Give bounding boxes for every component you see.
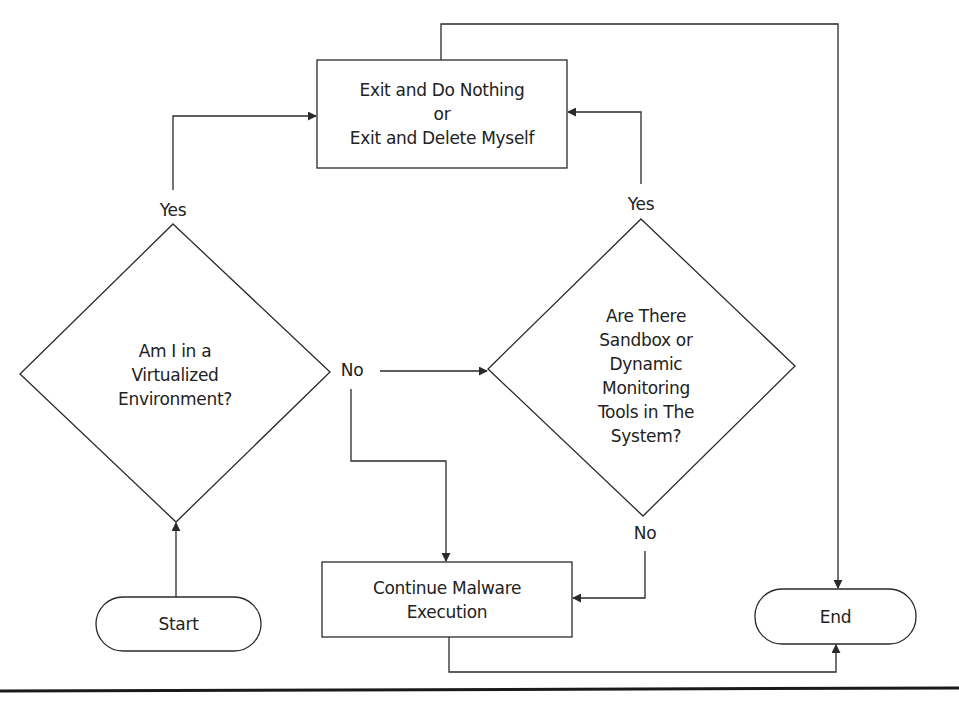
edge-label-vm-no: No	[332, 359, 372, 381]
edge-label-vm-yes: Yes	[148, 199, 198, 221]
edge-sandbox-yes-to-exit	[568, 112, 641, 184]
exit-box-label: Exit and Do Nothing or Exit and Delete M…	[317, 60, 567, 168]
edge-label-sandbox-yes: Yes	[616, 193, 666, 215]
edge-vm-no-to-continue	[351, 389, 446, 561]
edge-label-sandbox-no: No	[625, 522, 665, 544]
end-label: End	[755, 589, 916, 644]
decision-sandbox-label: Are There Sandbox or Dynamic Monitoring …	[566, 296, 726, 456]
edge-sandbox-no-to-continue	[573, 551, 645, 598]
start-label: Start	[96, 597, 261, 651]
edge-vm-yes-to-exit	[173, 116, 316, 190]
bottom-rule	[0, 688, 959, 691]
continue-box-label: Continue Malware Execution	[322, 562, 572, 637]
decision-vm-label: Am I in a Virtualized Environment?	[95, 320, 255, 430]
